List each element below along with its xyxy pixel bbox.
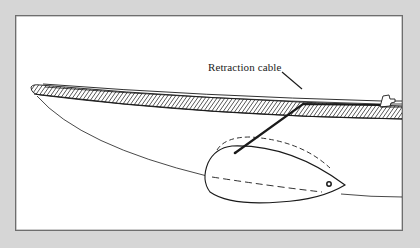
hatched-hull-section xyxy=(31,85,403,119)
keel-bulb-outline xyxy=(205,146,345,203)
hull-aft-line xyxy=(341,194,403,197)
stern-fitting-icon xyxy=(380,95,395,107)
hull-diagram xyxy=(0,0,420,248)
label-leader-line xyxy=(282,72,302,89)
pivot-pin-icon xyxy=(327,182,331,186)
retraction-cable-label: Retraction cable xyxy=(208,61,281,73)
